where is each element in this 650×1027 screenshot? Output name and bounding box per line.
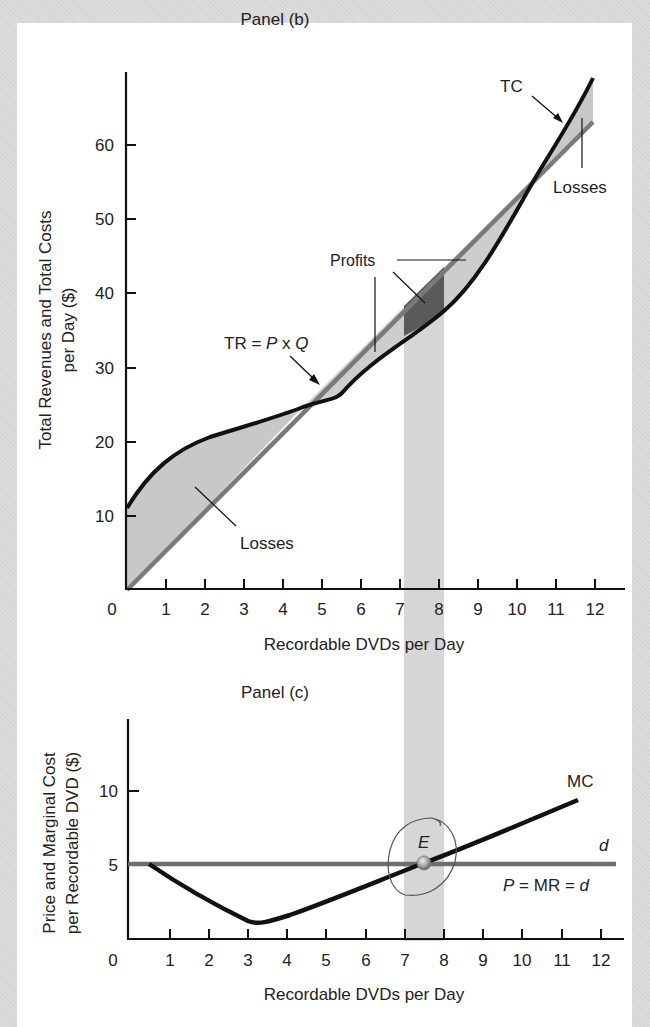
- x-tick-label: 1: [161, 600, 170, 619]
- x-tick-label: 5: [321, 951, 330, 970]
- panel-b-y-ticks: [126, 145, 136, 516]
- y-tick-label: 30: [95, 359, 114, 378]
- panel-c-y-label-line1: Price and Marginal Cost: [40, 752, 59, 934]
- profits-label: Profits: [330, 252, 375, 269]
- y-tick-label: 40: [95, 284, 114, 303]
- x-tick-label: 9: [473, 600, 482, 619]
- x-tick-label: 7: [400, 951, 409, 970]
- x-tick-label: 10: [513, 951, 532, 970]
- y-tick-label: 10: [95, 507, 114, 526]
- profits-leader-diag: [393, 272, 425, 303]
- x-tick-label: 6: [361, 951, 370, 970]
- x-tick-label: 8: [434, 600, 443, 619]
- y-tick-label: 20: [95, 433, 114, 452]
- x-tick-label: 12: [586, 600, 605, 619]
- tr-label: TR = P x Q: [224, 334, 309, 353]
- p-mr-d-label: P = MR = d: [503, 876, 590, 895]
- y-tick-label: 10: [99, 782, 118, 801]
- tc-label: TC: [500, 77, 523, 96]
- x-tick-label: 7: [395, 600, 404, 619]
- panel-b-title: Panel (b): [241, 10, 310, 29]
- mc-curve: [149, 800, 578, 923]
- x-tick-label: 2: [204, 951, 213, 970]
- losses-left-label: Losses: [240, 534, 294, 553]
- panel-b-x-label: Recordable DVDs per Day: [264, 635, 465, 654]
- panel-c-x-ticks: [170, 929, 601, 939]
- tr-line: [127, 122, 593, 590]
- x-tick-label: 1: [165, 951, 174, 970]
- y-tick-label: 50: [95, 210, 114, 229]
- x-tick-label: 9: [478, 951, 487, 970]
- x-tick-label: 4: [282, 951, 291, 970]
- x-tick-label: 3: [243, 951, 252, 970]
- x-tick-label: 2: [200, 600, 209, 619]
- x-tick-label: 0: [107, 600, 116, 619]
- x-tick-label: 8: [439, 951, 448, 970]
- panel-b-y-label-line1: Total Revenues and Total Costs: [36, 211, 55, 450]
- x-tick-label: 12: [592, 951, 611, 970]
- panel-b-x-ticks: [166, 579, 595, 589]
- x-tick-label: 6: [356, 600, 365, 619]
- figure-canvas: 10 20 30 40 50 60 0 1 2 3 4 5 6 7 8 9 10…: [0, 0, 650, 1027]
- losses-right-label: Losses: [553, 178, 607, 197]
- y-tick-label: 5: [109, 856, 118, 875]
- panel-c: E 5 10 0 1 2 3 4 5 6 7 8 9 10 11 12 Pane…: [40, 683, 624, 1004]
- x-tick-label: 4: [278, 600, 287, 619]
- x-tick-label: 10: [508, 600, 527, 619]
- panel-c-title: Panel (c): [241, 683, 309, 702]
- panel-c-x-label: Recordable DVDs per Day: [264, 985, 465, 1004]
- tc-curve: [127, 78, 593, 508]
- x-tick-label: 11: [553, 951, 571, 970]
- mc-label: MC: [567, 772, 593, 791]
- panel-b-y-label-line2: per Day ($): [59, 287, 78, 372]
- equilibrium-label: E: [418, 833, 430, 852]
- x-tick-label: 5: [317, 600, 326, 619]
- y-tick-label: 60: [95, 136, 114, 155]
- equilibrium-point: [417, 856, 431, 870]
- x-tick-label: 0: [108, 951, 117, 970]
- tr-arrow: [290, 356, 315, 380]
- x-tick-label: 11: [547, 600, 565, 619]
- panel-c-y-ticks: [128, 791, 139, 865]
- d-label: d: [599, 836, 609, 855]
- panel-c-y-label-line2: per Recordable DVD ($): [63, 752, 82, 934]
- x-tick-label: 3: [239, 600, 248, 619]
- panel-b: 10 20 30 40 50 60 0 1 2 3 4 5 6 7 8 9 10…: [36, 10, 625, 654]
